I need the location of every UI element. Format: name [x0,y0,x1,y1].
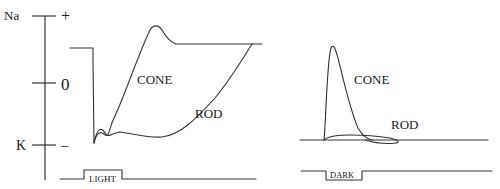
zero-label: 0 [61,75,70,94]
dark-stimulus-label: DARK [330,170,355,180]
light-baseline-trace [70,48,94,143]
membrane-potential-axis: Na + 0 K – [4,7,70,180]
dark-response-panel: CONE ROD DARK [300,46,492,180]
cone-label-light: CONE [137,72,172,87]
rod-label-dark: ROD [391,117,418,132]
minus-sign: – [60,137,69,153]
light-response-panel: CONE ROD LIGHT [60,26,262,184]
photoreceptor-response-diagram: Na + 0 K – CONE ROD LIGHT CONE ROD DARK [0,0,500,189]
rod-trace-dark [324,135,398,143]
na-label: Na [4,8,19,23]
plus-sign: + [61,7,70,24]
k-label: K [16,138,26,153]
cone-trace-light [94,26,262,143]
light-stimulus-label: LIGHT [89,174,116,184]
cone-label-dark: CONE [354,72,389,87]
rod-trace-light [94,44,252,143]
rod-label-light: ROD [195,106,222,121]
cone-trace-dark [324,46,372,140]
